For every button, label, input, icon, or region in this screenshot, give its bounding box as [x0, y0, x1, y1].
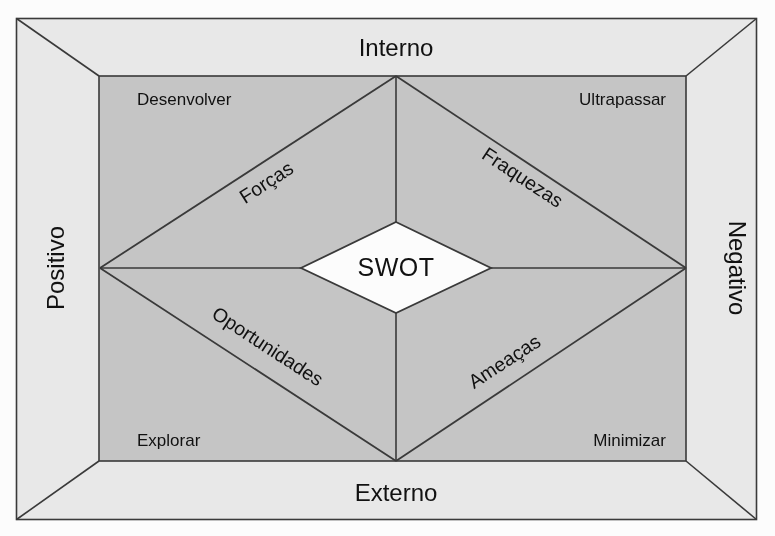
- quadrant-label-top-left: Desenvolver: [137, 90, 232, 109]
- quadrant-label-top-right: Ultrapassar: [579, 90, 666, 109]
- axis-label-bottom: Externo: [355, 479, 438, 506]
- axis-label-left: Positivo: [42, 226, 69, 310]
- swot-diagram-canvas: SWOT Interno Externo Positivo Negativo D…: [0, 0, 775, 536]
- center-label: SWOT: [358, 253, 435, 281]
- swot-diagram-svg: SWOT Interno Externo Positivo Negativo D…: [0, 0, 775, 536]
- quadrant-label-bottom-right: Minimizar: [593, 431, 666, 450]
- axis-label-right: Negativo: [724, 221, 751, 316]
- quadrant-label-bottom-left: Explorar: [137, 431, 201, 450]
- axis-label-top: Interno: [359, 34, 434, 61]
